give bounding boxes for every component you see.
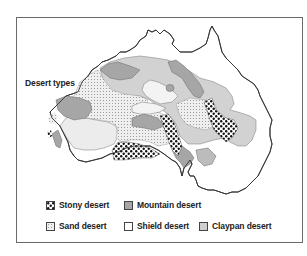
legend-label: Sand desert — [59, 221, 107, 231]
mountain-desert-coast — [52, 130, 62, 148]
legend-stony: Stony desert — [46, 200, 109, 210]
mountain-swatch-icon — [124, 201, 133, 210]
claypan-swatch-icon — [199, 222, 208, 231]
legend-mountain: Mountain desert — [124, 200, 201, 210]
legend-label: Claypan desert — [212, 221, 272, 231]
legend-shield: Shield desert — [124, 221, 189, 231]
map-title: Desert types — [25, 78, 75, 88]
legend-sand: Sand desert — [46, 221, 107, 231]
legend-claypan: Claypan desert — [199, 221, 272, 231]
stony-swatch-icon — [46, 201, 55, 210]
mountain-desert-spot — [166, 85, 174, 92]
legend-label: Mountain desert — [137, 200, 201, 210]
australia-desert-map — [0, 0, 307, 256]
shield-swatch-icon — [124, 222, 133, 231]
legend-label: Stony desert — [59, 200, 109, 210]
stony-desert-coast — [47, 130, 52, 138]
sand-swatch-icon — [46, 222, 55, 231]
legend-label: Shield desert — [137, 221, 189, 231]
